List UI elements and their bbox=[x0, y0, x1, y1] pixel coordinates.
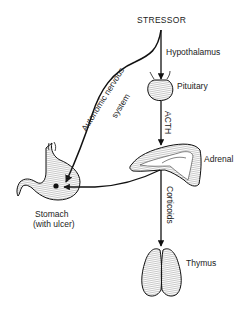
corticoids-label: Corticoids bbox=[166, 186, 175, 224]
adrenal-label: Adrenal bbox=[204, 155, 233, 164]
adrenal-gland-icon bbox=[130, 144, 201, 186]
stomach-label: Stomach bbox=[35, 210, 69, 219]
pituitary-gland-icon bbox=[148, 71, 173, 101]
stressor-label: STRESSOR bbox=[137, 16, 186, 25]
thymus-icon bbox=[142, 249, 182, 296]
ulcer-dot bbox=[53, 183, 58, 188]
pituitary-label: Pituitary bbox=[177, 82, 208, 91]
acth-label: ACTH bbox=[164, 111, 173, 134]
stomach-note-label: (with ulcer) bbox=[33, 220, 75, 229]
hypothalamus-label: Hypothalamus bbox=[166, 48, 220, 57]
stomach-icon bbox=[17, 142, 80, 200]
thymus-label: Thymus bbox=[186, 259, 216, 268]
